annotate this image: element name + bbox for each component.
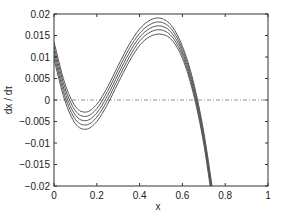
series-line-1 [54,18,215,203]
y-tick-label: −0.01 [25,138,51,149]
data-series [54,18,215,217]
x-tick-label: 0 [51,190,57,201]
y-axis-ticks: 0.020.0150.010.0050−0.005−0.01−0.015−0.0… [19,9,268,192]
x-tick-label: 0.8 [218,190,232,201]
y-tick-label: 0.02 [31,9,51,20]
y-tick-label: 0.01 [31,52,51,63]
x-axis-ticks: 00.20.40.60.81 [51,14,271,201]
y-tick-label: 0.005 [25,73,50,84]
y-tick-label: 0 [44,95,50,106]
x-tick-label: 0.6 [175,190,189,201]
y-tick-label: 0.015 [25,30,50,41]
x-axis-label: x [156,201,161,212]
y-axis-label: dx / dτ [3,86,14,114]
x-tick-label: 1 [265,190,271,201]
chart: 00.20.40.60.81 0.020.0150.010.0050−0.005… [0,0,281,218]
y-tick-label: −0.015 [19,159,50,170]
y-tick-label: −0.005 [19,116,50,127]
y-tick-label: −0.02 [25,181,51,192]
x-tick-label: 0.2 [90,190,104,201]
x-tick-label: 0.4 [133,190,147,201]
